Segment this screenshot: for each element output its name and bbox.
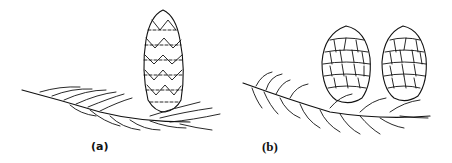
panel-b-label: (b) [262,140,278,153]
botanical-figure: (a) (b) [0,0,452,163]
cone-illustrations [0,0,452,163]
panel-b-cone-2-drawing [382,26,426,101]
panel-a-branch-drawing [22,87,220,130]
panel-b-branch-drawing [243,72,430,134]
panel-a-cone-drawing [144,10,183,112]
panel-b-cone-1-drawing [322,26,370,103]
panel-a-label: (a) [91,140,108,153]
